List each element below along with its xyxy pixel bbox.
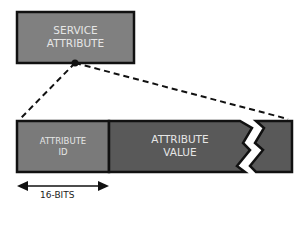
label-line: ATTRIBUTE [17, 136, 109, 147]
attribute-value-tail [250, 121, 292, 172]
connector-left [20, 63, 75, 119]
arrow-right-head-icon [98, 181, 109, 191]
attribute-value-label: ATTRIBUTE VALUE [120, 133, 240, 159]
attribute-id-label: ATTRIBUTE ID [17, 136, 109, 158]
label-line: ID [17, 147, 109, 158]
arrow-left-head-icon [17, 181, 28, 191]
label-line: ATTRIBUTE [17, 37, 134, 50]
width-label: 16-BITS [40, 190, 74, 200]
connection-dot [72, 60, 79, 67]
connector-right [75, 63, 288, 119]
service-attribute-label: SERVICE ATTRIBUTE [17, 24, 134, 50]
label-line: ATTRIBUTE [120, 133, 240, 146]
label-line: SERVICE [17, 24, 134, 37]
label-line: VALUE [120, 146, 240, 159]
